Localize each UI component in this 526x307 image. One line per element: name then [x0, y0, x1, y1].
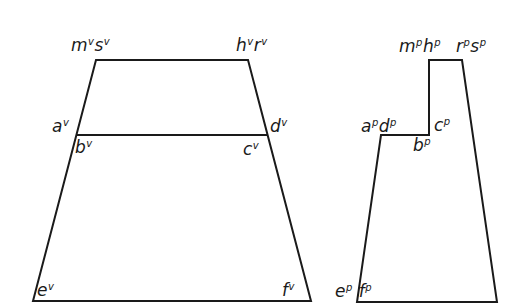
label-dv: dv: [270, 118, 288, 135]
label-base: e: [37, 280, 48, 300]
label-fv: fv: [282, 282, 295, 299]
label-base: s: [470, 36, 479, 56]
label-av: av: [52, 118, 69, 135]
label-base: r: [456, 36, 464, 56]
label-sup: v: [289, 281, 295, 292]
label-sup: p: [424, 136, 431, 147]
label-mp-hp: mphp: [399, 38, 441, 55]
label-sup: v: [104, 36, 110, 47]
vertical-view-outline: [33, 60, 311, 301]
label-sup: v: [281, 117, 287, 128]
label-cv: cv: [243, 141, 259, 158]
label-base: m: [399, 36, 416, 56]
label-sup: v: [63, 117, 69, 128]
label-base: s: [94, 35, 103, 55]
label-sup: v: [48, 281, 54, 292]
label-base: h: [423, 36, 434, 56]
label-ep-fp: epfp: [335, 283, 372, 300]
label-base: b: [413, 135, 424, 155]
label-ap-dp: apdp: [361, 118, 397, 135]
label-hv-rv: hvrv: [236, 37, 268, 54]
label-base: a: [52, 116, 63, 136]
label-rp-sp: rpsp: [456, 38, 487, 55]
label-base: m: [71, 35, 88, 55]
label-mv-sv: mvsv: [71, 37, 110, 54]
label-base: d: [379, 116, 390, 136]
label-base: d: [270, 116, 281, 136]
label-sup: v: [261, 36, 267, 47]
label-base: h: [236, 35, 247, 55]
label-cp: cp: [434, 117, 451, 134]
label-sup: p: [480, 37, 487, 48]
label-ev: ev: [37, 282, 54, 299]
label-sup: p: [444, 116, 451, 127]
label-bv: bv: [75, 139, 93, 156]
label-sup: p: [346, 282, 353, 293]
label-base: c: [434, 115, 444, 135]
label-base: a: [361, 116, 372, 136]
label-sup: p: [416, 37, 423, 48]
label-base: b: [75, 137, 86, 157]
label-sup: p: [390, 117, 397, 128]
plan-view-outline: [357, 60, 497, 302]
label-sup: p: [372, 117, 379, 128]
label-sup: v: [86, 138, 92, 149]
label-sup: v: [253, 140, 259, 151]
label-base: c: [243, 139, 253, 159]
label-base: e: [335, 281, 346, 301]
label-sup: p: [365, 282, 372, 293]
label-sup: p: [434, 37, 441, 48]
label-bp: bp: [413, 137, 431, 154]
